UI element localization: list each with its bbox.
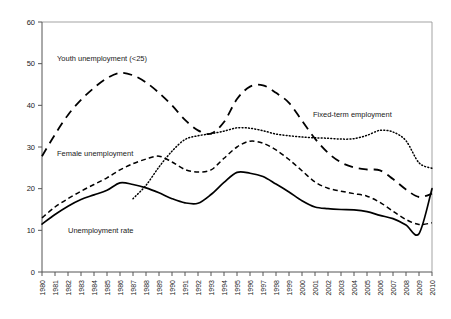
x-tick-label: 1984 [91,280,98,296]
x-tick-label: 1985 [104,280,111,296]
x-tick-label: 1997 [260,280,267,296]
x-tick-label: 1990 [169,280,176,296]
series-label-fixed-term-employment: Fixed-term employment [313,110,393,119]
x-tick-label: 1992 [195,280,202,296]
x-tick-label: 1980 [39,280,46,296]
x-tick-label: 2008 [403,280,410,296]
x-tick-label: 2001 [312,280,319,296]
x-tick-label: 2004 [351,280,358,296]
x-tick-label: 1981 [52,280,59,296]
series-label-unemployment-rate: Unemployment rate [68,226,133,235]
x-tick-label: 1998 [273,280,280,296]
y-tick-label: 60 [27,18,35,27]
x-tick-label: 1989 [156,280,163,296]
y-tick-label: 10 [27,226,35,235]
x-tick-label: 1993 [208,280,215,296]
x-tick-label: 1991 [182,280,189,296]
x-tick-label: 1988 [143,280,150,296]
x-tick-label: 2010 [429,280,436,296]
x-tick-label: 2006 [377,280,384,296]
series-label-female-unemployment: Female unemployment [57,149,134,158]
x-tick-label: 1986 [117,280,124,296]
chart-container: 0102030405060 19801981198219831984198519… [0,0,451,319]
x-tick-label: 1982 [65,280,72,296]
x-tick-label: 1995 [234,280,241,296]
y-tick-label: 40 [27,101,35,110]
y-tick-label: 0 [31,268,35,277]
x-tick-label: 1994 [221,280,228,296]
x-tick-label: 2007 [390,280,397,296]
series-label-youth-unemployment-25: Youth unemployment (<25) [57,54,147,63]
y-tick-label: 30 [27,143,35,152]
chart-background [0,0,451,319]
x-tick-label: 1999 [286,280,293,296]
x-tick-label: 2000 [299,280,306,296]
x-tick-label: 1987 [130,280,137,296]
y-tick-label: 20 [27,184,35,193]
x-tick-label: 2003 [338,280,345,296]
x-tick-label: 2005 [364,280,371,296]
x-tick-label: 1983 [78,280,85,296]
x-tick-label: 2002 [325,280,332,296]
line-chart: 0102030405060 19801981198219831984198519… [0,0,451,319]
y-tick-label: 50 [27,59,35,68]
x-tick-label: 2009 [416,280,423,296]
x-tick-label: 1996 [247,280,254,296]
